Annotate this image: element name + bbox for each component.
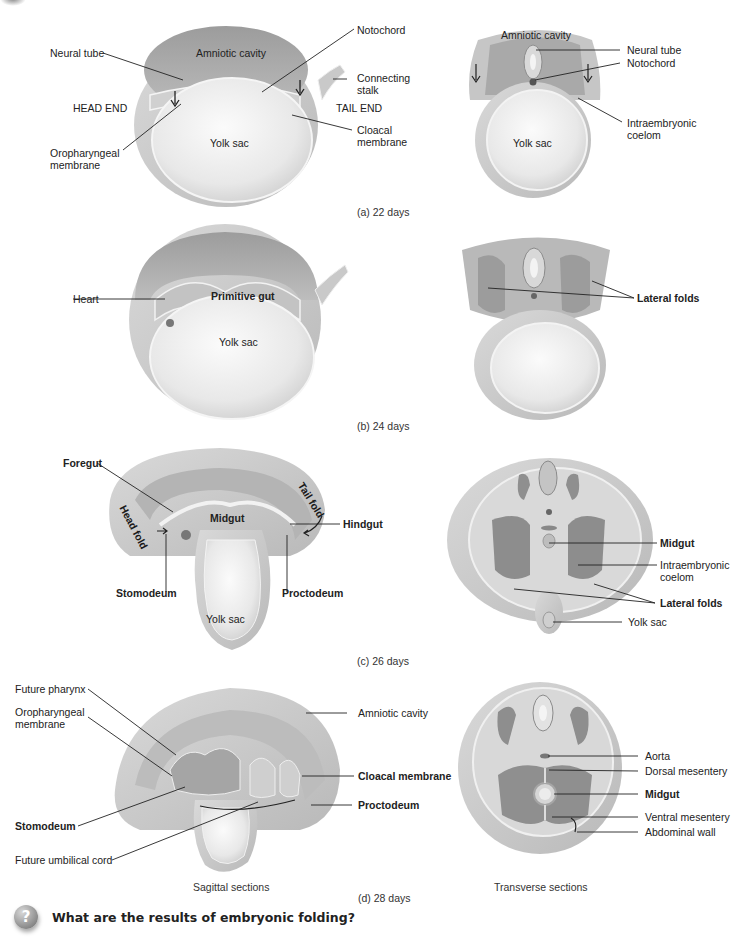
label-a-connecting-stalk: Connecting stalk bbox=[357, 72, 417, 96]
label-d-t-ventral-mesentery: Ventral mesentery bbox=[645, 811, 730, 823]
label-a-yolk-sac: Yolk sac bbox=[210, 137, 249, 149]
label-d-oropharyngeal-membrane: Oropharyngeal membrane bbox=[15, 706, 95, 730]
question-mark-icon: ? bbox=[14, 905, 38, 929]
label-a-head-end: HEAD END bbox=[73, 102, 127, 114]
label-b-heart: Heart bbox=[73, 293, 99, 305]
label-a-notochord: Notochord bbox=[357, 24, 405, 36]
panel-a-transverse bbox=[469, 30, 600, 198]
label-a-t-amniotic-cavity: Amniotic cavity bbox=[501, 29, 571, 41]
label-d-amniotic-cavity: Amniotic cavity bbox=[358, 707, 428, 719]
label-d-t-dorsal-mesentery: Dorsal mesentery bbox=[645, 765, 727, 777]
caption-transverse-sections: Transverse sections bbox=[494, 881, 588, 893]
label-b-yolk-sac: Yolk sac bbox=[219, 336, 258, 348]
panel-b-transverse bbox=[462, 238, 610, 421]
label-d-stomodeum: Stomodeum bbox=[15, 820, 76, 832]
label-c-yolk-sac: Yolk sac bbox=[206, 613, 245, 625]
label-a-amniotic-cavity: Amniotic cavity bbox=[196, 47, 266, 59]
label-b-primitive-gut: Primitive gut bbox=[211, 290, 275, 302]
panel-c-transverse bbox=[447, 458, 653, 634]
label-a-cloacal-membrane: Cloacal membrane bbox=[357, 124, 417, 148]
panel-d-sagittal bbox=[115, 688, 340, 872]
label-c-foregut: Foregut bbox=[63, 457, 102, 469]
label-a-t-yolk-sac: Yolk sac bbox=[513, 137, 552, 149]
label-c-proctodeum: Proctodeum bbox=[282, 587, 343, 599]
panel-b-sagittal bbox=[129, 224, 348, 419]
label-d-future-umbilical-cord: Future umbilical cord bbox=[15, 854, 112, 866]
label-d-proctodeum: Proctodeum bbox=[358, 799, 419, 811]
label-a-tail-end: TAIL END bbox=[336, 102, 382, 114]
label-d-future-pharynx: Future pharynx bbox=[15, 683, 86, 695]
label-d-t-midgut: Midgut bbox=[645, 788, 679, 800]
caption-a: (a) 22 days bbox=[357, 206, 410, 218]
label-c-midgut: Midgut bbox=[210, 512, 244, 524]
label-c-t-lateral-folds: Lateral folds bbox=[660, 597, 722, 609]
label-a-t-neural-tube: Neural tube bbox=[627, 44, 681, 56]
label-d-t-abdominal-wall: Abdominal wall bbox=[645, 826, 716, 838]
caption-b: (b) 24 days bbox=[357, 420, 410, 432]
label-d-t-aorta: Aorta bbox=[645, 750, 670, 762]
label-b-lateral-folds: Lateral folds bbox=[637, 292, 699, 304]
question-prompt: ? What are the results of embryonic fold… bbox=[14, 905, 355, 929]
caption-sagittal-sections: Sagittal sections bbox=[193, 881, 269, 893]
label-a-t-intraembryonic-coelom: Intraembryonic coelom bbox=[627, 117, 717, 141]
label-a-neural-tube: Neural tube bbox=[50, 47, 104, 59]
label-c-t-yolk-sac: Yolk sac bbox=[628, 616, 667, 628]
caption-d: (d) 28 days bbox=[358, 892, 411, 904]
caption-c: (c) 26 days bbox=[357, 655, 409, 667]
label-c-t-intraembryonic-coelom: Intraembryonic coelom bbox=[660, 559, 750, 583]
label-c-stomodeum: Stomodeum bbox=[116, 587, 177, 599]
question-text: What are the results of embryonic foldin… bbox=[52, 910, 355, 925]
label-c-t-midgut: Midgut bbox=[660, 537, 694, 549]
label-a-t-notochord: Notochord bbox=[627, 57, 675, 69]
label-a-oropharyngeal-membrane: Oropharyngeal membrane bbox=[50, 147, 130, 171]
panel-d-transverse bbox=[458, 682, 622, 854]
label-d-cloacal-membrane: Cloacal membrane bbox=[358, 770, 451, 782]
label-c-hindgut: Hindgut bbox=[343, 518, 383, 530]
